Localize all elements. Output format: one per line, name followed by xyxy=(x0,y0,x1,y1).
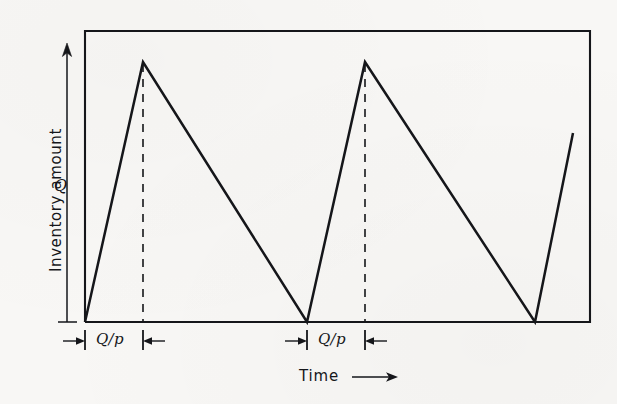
y-axis-tick-label-q: Q xyxy=(54,176,67,195)
y-axis-title: Inventory amount xyxy=(47,128,65,272)
dimension-1-right-arrow-head-icon xyxy=(143,337,152,344)
plot-canvas xyxy=(0,0,617,404)
dimension-2-left-arrow-head-icon xyxy=(298,337,307,344)
x-axis-arrow-group xyxy=(352,372,398,382)
inventory-level-series xyxy=(85,62,573,322)
peak-dashed-guides xyxy=(143,64,365,322)
inventory-level-polyline xyxy=(85,62,573,322)
dimension-1-label: Q/p xyxy=(96,330,124,348)
x-axis-title: Time xyxy=(299,367,339,385)
dimension-1-left-arrow-head-icon xyxy=(76,337,85,344)
inventory-sawtooth-figure: Inventory amount Q Q/p Q/p Time xyxy=(0,0,617,404)
dimension-2-label: Q/p xyxy=(318,330,346,348)
dimension-2-right-arrow-head-icon xyxy=(365,337,374,344)
plot-frame xyxy=(85,31,590,322)
plot-frame-border xyxy=(85,31,590,322)
